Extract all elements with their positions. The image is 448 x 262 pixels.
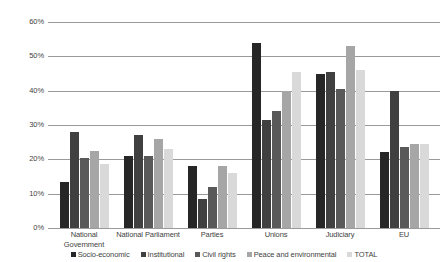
y-axis-tick-label: 10% xyxy=(4,189,44,198)
y-axis-tick-label: 0% xyxy=(4,223,44,232)
bar[interactable] xyxy=(70,132,79,228)
legend-swatch-icon xyxy=(347,252,352,257)
bar[interactable] xyxy=(272,111,281,228)
bar[interactable] xyxy=(188,166,197,228)
x-axis-tick-label-line: Judiciary xyxy=(308,230,372,240)
bar[interactable] xyxy=(282,91,291,228)
bar[interactable] xyxy=(400,147,409,228)
bar-group xyxy=(308,22,372,228)
bar[interactable] xyxy=(164,149,173,228)
bar-group xyxy=(116,22,180,228)
bar[interactable] xyxy=(90,151,99,228)
bar[interactable] xyxy=(100,164,109,228)
chart-legend: Socio-economicInstitutionalCivil rightsP… xyxy=(0,247,448,261)
bar[interactable] xyxy=(124,156,133,228)
bar-group xyxy=(52,22,116,228)
bar[interactable] xyxy=(356,70,365,228)
bar[interactable] xyxy=(218,166,227,228)
legend-label: TOTAL xyxy=(354,250,377,259)
bar[interactable] xyxy=(420,144,429,228)
bar[interactable] xyxy=(198,199,207,228)
bar[interactable] xyxy=(316,74,325,229)
y-axis-tick-label: 30% xyxy=(4,120,44,129)
legend-label: Institutional xyxy=(148,250,185,259)
gridline-0 xyxy=(48,228,440,229)
bar[interactable] xyxy=(60,182,69,228)
bar[interactable] xyxy=(144,156,153,228)
bar-group xyxy=(372,22,436,228)
bar[interactable] xyxy=(208,187,217,228)
bar-group xyxy=(244,22,308,228)
x-axis-tick-label-line: Parties xyxy=(180,230,244,240)
legend-swatch-icon xyxy=(195,252,200,257)
legend-item[interactable]: Socio-economic xyxy=(71,250,130,259)
bar-chart: 60%50%40%30%20%10%0% NationalGovernmentN… xyxy=(0,0,448,262)
bar[interactable] xyxy=(336,89,345,228)
legend-swatch-icon xyxy=(71,252,76,257)
bar[interactable] xyxy=(228,173,237,228)
bar-groups xyxy=(48,22,440,228)
bar[interactable] xyxy=(390,91,399,228)
x-axis-tick-label-line: National Parliament xyxy=(116,230,180,240)
x-axis-tick-label-line: National xyxy=(52,230,116,240)
legend-swatch-icon xyxy=(141,252,146,257)
bar[interactable] xyxy=(262,120,271,228)
legend-item[interactable]: TOTAL xyxy=(347,250,377,259)
legend-item[interactable]: Institutional xyxy=(141,250,185,259)
bar[interactable] xyxy=(80,158,89,228)
y-axis-tick-label: 40% xyxy=(4,86,44,95)
x-axis-tick-label-line: Unions xyxy=(244,230,308,240)
legend-item[interactable]: Peace and environmental xyxy=(247,250,337,259)
legend-label: Socio-economic xyxy=(78,250,130,259)
bar[interactable] xyxy=(154,139,163,228)
bar[interactable] xyxy=(252,43,261,228)
legend-label: Peace and environmental xyxy=(254,250,337,259)
y-axis-tick-label: 50% xyxy=(4,51,44,60)
y-axis: 60%50%40%30%20%10%0% xyxy=(0,22,44,228)
bar[interactable] xyxy=(410,144,419,228)
legend-label: Civil rights xyxy=(202,250,235,259)
bar-group xyxy=(180,22,244,228)
y-axis-tick-label: 60% xyxy=(4,17,44,26)
legend-item[interactable]: Civil rights xyxy=(195,250,235,259)
bar[interactable] xyxy=(292,72,301,228)
bar[interactable] xyxy=(326,72,335,228)
bar[interactable] xyxy=(380,152,389,228)
bar[interactable] xyxy=(346,46,355,228)
legend-swatch-icon xyxy=(247,252,252,257)
bar[interactable] xyxy=(134,135,143,228)
x-axis-tick-label-line: EU xyxy=(372,230,436,240)
y-axis-tick-label: 20% xyxy=(4,154,44,163)
